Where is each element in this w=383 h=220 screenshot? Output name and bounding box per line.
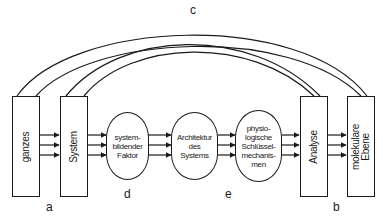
box-ganzes: ganzes [12, 96, 40, 197]
label-c: c [190, 4, 196, 16]
box-analyse-label: Analyse [309, 130, 319, 163]
box-molekulare-ebene: molekulare Ebene [347, 96, 375, 197]
label-d: d [124, 188, 131, 200]
label-b: b [333, 201, 340, 213]
oval-systembildender-label: system- bildender Faktor [112, 133, 142, 160]
box-analyse: Analyse [300, 96, 328, 197]
label-a: a [46, 201, 53, 213]
oval-physiologische: physio- logische Schlüssel- mechanis- me… [235, 110, 282, 182]
oval-systembildender-faktor: system- bildender Faktor [106, 112, 149, 180]
box-molekulare-label: molekulare Ebene [351, 124, 371, 170]
oval-architektur: Architektur des Systems [171, 112, 218, 180]
box-system-label: System [69, 131, 79, 163]
box-system: System [60, 96, 88, 197]
box-ganzes-label: ganzes [21, 131, 31, 161]
oval-architektur-label: Architektur des Systems [177, 133, 212, 160]
label-e: e [225, 188, 232, 200]
oval-physiologische-label: physio- logische Schlüssel- mechanis- me… [241, 124, 275, 169]
